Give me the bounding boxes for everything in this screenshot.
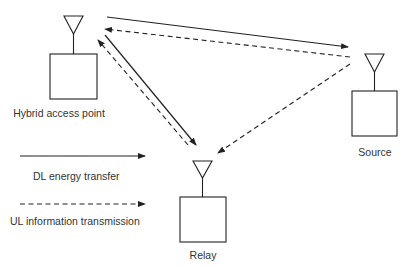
device-box — [352, 91, 397, 136]
node-relay: Relay — [180, 161, 226, 261]
label-relay: Relay — [190, 249, 218, 261]
node-source: Source — [352, 54, 397, 158]
label-hybrid-access-point: Hybrid access point — [13, 107, 105, 119]
legend-label-dl: DL energy transfer — [33, 170, 120, 182]
device-box — [180, 197, 226, 242]
legend: DL energy transfer UL information transm… — [10, 156, 145, 227]
arrow-source-to-relay-dashed — [218, 64, 350, 153]
legend-label-ul: UL information transmission — [10, 215, 140, 227]
node-hybrid-access-point: Hybrid access point — [13, 16, 105, 119]
label-source: Source — [358, 146, 391, 158]
device-box — [50, 54, 97, 99]
antenna-icon — [64, 16, 83, 34]
arrow-hap-to-relay-solid — [105, 35, 196, 145]
antenna-icon — [193, 161, 212, 178]
antenna-icon — [365, 54, 384, 72]
arrow-relay-to-hap-dashed — [98, 40, 188, 145]
diagram-canvas: Hybrid access point Source Relay DL ener… — [0, 0, 413, 267]
